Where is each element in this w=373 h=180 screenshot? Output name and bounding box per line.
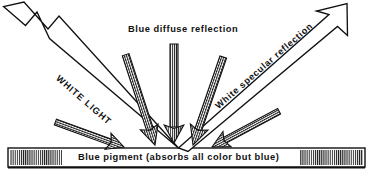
optics-diagram: Blue diffuse reflection WHITE LIGHT Whit… — [0, 0, 373, 180]
blue-pigment-label: Blue pigment (absorbs all color but blue… — [78, 153, 279, 162]
diffuse-ray-center-shaft — [170, 44, 178, 127]
diffuse-ray-center-head — [164, 125, 184, 143]
diffuse-ray-center — [164, 44, 184, 143]
pigment-bar-hatch-right — [300, 150, 363, 165]
pigment-bar-hatch-left — [10, 150, 62, 165]
diffuse-reflection-title: Blue diffuse reflection — [128, 25, 238, 34]
